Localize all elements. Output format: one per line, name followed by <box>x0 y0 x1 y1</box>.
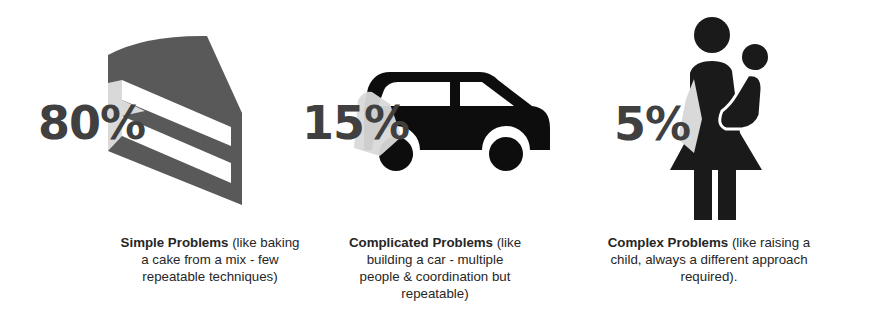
caption-complicated: Complicated Problems (like building a ca… <box>340 234 530 302</box>
caption-line: (like baking <box>228 235 299 250</box>
panel-complex: 5% Complex Problems (like raising a chil… <box>580 0 869 322</box>
caption-complex: Complex Problems (like raising a child, … <box>594 234 824 285</box>
caption-line: required). <box>681 269 738 284</box>
caption-line: building a car - multiple <box>367 252 504 267</box>
panel-complicated: 15% Complicated Problems (like building … <box>290 0 580 322</box>
caption-line: repeatable techniques) <box>142 269 277 284</box>
caption-line: people & coordination but <box>360 269 511 284</box>
caption-line: (like raising a <box>728 235 810 250</box>
caption-line: repeatable) <box>401 286 468 301</box>
caption-title: Simple Problems <box>121 235 229 250</box>
caption-line: (like <box>493 235 521 250</box>
percent-label: 80% <box>38 100 145 146</box>
caption-title: Complex Problems <box>608 235 728 250</box>
caption-title: Complicated Problems <box>349 235 493 250</box>
percent-label: 15% <box>302 100 409 146</box>
panel-simple: 80% Simple Problems (like baking a cake … <box>0 0 290 322</box>
percent-label: 5% <box>614 101 690 147</box>
caption-line: child, always a different approach <box>610 252 807 267</box>
caption-line: a cake from a mix - few <box>141 252 278 267</box>
caption-simple: Simple Problems (like baking a cake from… <box>120 234 300 285</box>
